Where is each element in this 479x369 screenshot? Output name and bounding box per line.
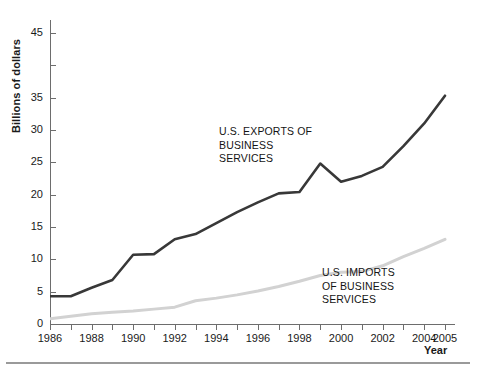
x-axis-tick-label: 1990 [113, 332, 153, 344]
x-axis-tick [362, 325, 363, 330]
x-axis-tick [258, 325, 259, 330]
x-axis-tick [196, 325, 197, 330]
y-axis-title-text: Billions of dollars [10, 38, 22, 132]
y-axis-tick-label: 0 [21, 317, 43, 329]
x-axis-tick-label: 1992 [155, 332, 195, 344]
x-axis-tick-label: 1998 [279, 332, 319, 344]
y-axis-tick-label: 10 [21, 252, 43, 264]
x-axis-tick [403, 325, 404, 330]
x-axis-tick [383, 325, 384, 330]
x-axis-tick [424, 325, 425, 330]
y-axis-tick-label: 5 [21, 285, 43, 297]
x-axis-tick [112, 325, 113, 330]
y-axis-tick-label: 30 [21, 123, 43, 135]
x-axis-tick [445, 325, 446, 330]
x-axis-tick [175, 325, 176, 330]
x-axis-title: Year [424, 344, 447, 356]
series-label-imports: U.S. IMPORTS OF BUSINESS SERVICES [322, 266, 395, 307]
x-axis-tick-label: 1994 [196, 332, 236, 344]
x-axis-tick [154, 325, 155, 330]
x-axis-tick [320, 325, 321, 330]
x-axis-tick-label: 1996 [238, 332, 278, 344]
x-axis-tick-label: 2002 [363, 332, 403, 344]
x-axis-tick [279, 325, 280, 330]
x-axis-tick [341, 325, 342, 330]
y-axis-tick-label: 25 [21, 155, 43, 167]
y-axis-tick-label: 45 [21, 26, 43, 38]
chart-figure: Billions of dollars 19861988199019921994… [0, 0, 479, 369]
y-axis-tick-label: 20 [21, 188, 43, 200]
bottom-divider [6, 362, 470, 364]
x-axis-tick-label: 2005 [425, 332, 465, 344]
x-axis-tick [237, 325, 238, 330]
x-axis-tick [133, 325, 134, 330]
x-axis-tick [71, 325, 72, 330]
x-axis-tick [92, 325, 93, 330]
x-axis-tick-label: 2000 [321, 332, 361, 344]
x-axis-tick-label: 1986 [30, 332, 70, 344]
y-axis-tick-label: 35 [21, 91, 43, 103]
y-axis-tick-label: 15 [21, 220, 43, 232]
x-axis-tick [216, 325, 217, 330]
x-axis-tick [50, 325, 51, 330]
series-label-exports: U.S. EXPORTS OF BUSINESS SERVICES [219, 125, 312, 166]
x-axis-tick-label: 1988 [72, 332, 112, 344]
x-axis-tick [299, 325, 300, 330]
